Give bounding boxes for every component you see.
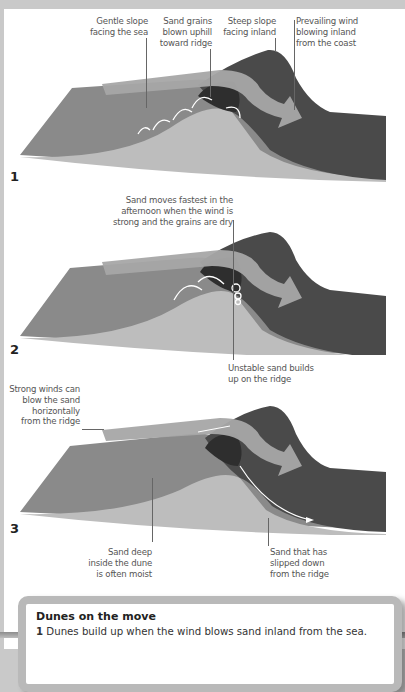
leader-sand-grains xyxy=(210,49,211,97)
leader-sand-slipped-down xyxy=(268,518,269,546)
info-box-title: Dunes on the move xyxy=(36,610,156,623)
leader-sand-moves-fastest xyxy=(233,220,234,360)
diagram-number-1: 1 xyxy=(10,169,19,184)
label-sand-deep-inside: Sand deep inside the dune is often moist xyxy=(76,547,152,579)
leader-gentle-slope xyxy=(146,38,147,108)
leader-steep-slope xyxy=(275,38,276,52)
dune-illustration-2 xyxy=(0,225,405,355)
label-sand-slipped-down: Sand that has slipped down from the ridg… xyxy=(270,547,350,579)
info-box-dunes-on-the-move: Dunes on the move 1 Dunes build up when … xyxy=(18,596,402,692)
dune-illustration-1 xyxy=(0,40,405,190)
diagram-number-3: 3 xyxy=(10,521,19,536)
label-sand-moves-fastest: Sand moves fastest in the afternoon when… xyxy=(100,195,233,227)
label-steep-slope: Steep slope facing inland xyxy=(218,16,276,38)
leader-sand-deep-inside xyxy=(152,478,153,542)
info-item-text: Dunes build up when the wind blows sand … xyxy=(43,626,367,637)
info-box-item-1: 1 Dunes build up when the wind blows san… xyxy=(36,626,396,637)
leader-prevailing-wind xyxy=(294,20,295,110)
label-gentle-slope: Gentle slope facing the sea xyxy=(86,16,148,38)
diagram-number-2: 2 xyxy=(10,342,19,357)
dune-illustration-3 xyxy=(0,400,405,535)
label-unstable-sand: Unstable sand builds up on the ridge xyxy=(228,363,338,385)
